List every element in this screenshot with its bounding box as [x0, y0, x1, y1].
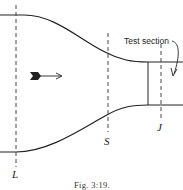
test-section-label: Test section [124, 36, 169, 46]
figure-caption: Fig. 3:19. [74, 180, 110, 190]
test-section-callout-arrow-icon [171, 41, 178, 76]
flow-arrow-icon [30, 72, 62, 80]
station-S-label: S [104, 135, 110, 147]
station-L-label: L [11, 168, 18, 180]
bottom-wall-contour [0, 105, 183, 152]
station-J-label: J [157, 121, 163, 133]
wind-tunnel-diagram: Test section L S J Fig. 3:19. [0, 0, 183, 190]
